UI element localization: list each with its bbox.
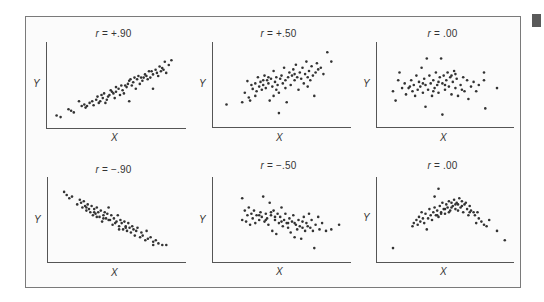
data-point xyxy=(149,76,152,79)
data-point xyxy=(414,95,417,98)
data-point xyxy=(287,76,290,79)
data-point xyxy=(141,80,144,83)
data-point xyxy=(441,82,444,85)
y-axis-label: Y xyxy=(363,212,370,223)
data-point xyxy=(306,76,309,79)
data-point xyxy=(255,214,258,217)
data-point xyxy=(105,217,108,220)
data-point xyxy=(262,79,265,82)
data-point xyxy=(488,219,491,222)
data-point xyxy=(283,67,286,70)
data-point xyxy=(293,79,296,82)
data-point xyxy=(261,216,264,219)
data-point xyxy=(158,65,161,68)
data-point xyxy=(416,88,419,91)
data-point xyxy=(121,89,124,92)
x-axis-label: X xyxy=(111,267,118,278)
data-point xyxy=(278,222,281,225)
data-point xyxy=(101,220,104,223)
data-point xyxy=(297,88,300,91)
data-point xyxy=(426,57,429,60)
data-point xyxy=(317,216,320,219)
data-point xyxy=(318,228,321,231)
data-point xyxy=(282,225,285,228)
data-point xyxy=(161,67,164,70)
data-point xyxy=(117,214,120,217)
data-point xyxy=(450,93,453,96)
data-point xyxy=(312,74,315,77)
data-point xyxy=(485,225,488,228)
data-point xyxy=(78,100,81,103)
data-point xyxy=(104,102,107,105)
x-axis-label: X xyxy=(276,266,283,277)
data-point xyxy=(316,62,319,65)
data-point xyxy=(118,228,121,231)
data-point xyxy=(292,68,295,71)
data-point xyxy=(314,223,317,226)
data-point xyxy=(292,214,295,217)
data-point xyxy=(259,81,262,84)
data-point xyxy=(80,105,83,108)
data-point xyxy=(308,213,311,216)
data-point xyxy=(59,116,62,119)
data-point xyxy=(246,214,249,217)
data-point xyxy=(261,88,264,91)
data-point xyxy=(466,208,469,211)
data-point xyxy=(279,78,282,81)
data-point xyxy=(91,100,94,103)
data-point xyxy=(80,202,83,205)
data-point xyxy=(246,80,249,83)
data-point xyxy=(450,202,453,205)
y-axis-label: Y xyxy=(199,214,206,225)
data-point xyxy=(338,223,341,226)
data-point xyxy=(314,71,317,74)
data-point xyxy=(134,234,137,237)
data-point xyxy=(160,70,163,73)
y-axis-label: Y xyxy=(33,78,40,89)
data-point xyxy=(478,217,481,220)
data-point xyxy=(309,79,312,82)
data-point xyxy=(422,82,425,85)
data-point xyxy=(306,225,309,228)
data-point xyxy=(483,79,486,82)
data-point xyxy=(304,73,307,76)
data-point xyxy=(416,223,419,226)
data-point xyxy=(262,195,265,198)
data-point xyxy=(444,84,447,87)
scatter-plot xyxy=(212,42,351,128)
data-point xyxy=(301,227,304,230)
data-point xyxy=(157,242,160,245)
data-point xyxy=(83,103,86,106)
data-point xyxy=(88,208,91,211)
panel-title: r = +.50 xyxy=(196,28,361,39)
data-point xyxy=(453,198,456,201)
data-point xyxy=(126,230,129,233)
data-point xyxy=(470,85,473,88)
panel-title: r = −.50 xyxy=(196,160,361,171)
data-point xyxy=(442,74,445,77)
data-point xyxy=(100,209,103,212)
data-point xyxy=(114,222,117,225)
data-point xyxy=(148,70,151,73)
data-point xyxy=(124,227,127,230)
data-point xyxy=(418,216,421,219)
data-point xyxy=(117,87,120,90)
data-point xyxy=(278,112,281,115)
data-point xyxy=(96,216,99,219)
data-point xyxy=(304,230,307,233)
data-point xyxy=(310,219,313,222)
data-point xyxy=(271,85,274,88)
page-tab-marker xyxy=(532,14,541,27)
data-point xyxy=(123,220,126,223)
data-point xyxy=(445,79,448,82)
data-point xyxy=(84,106,87,109)
data-point xyxy=(170,59,173,62)
data-point xyxy=(326,51,329,54)
data-point xyxy=(429,82,432,85)
data-point xyxy=(115,91,118,94)
data-point xyxy=(110,214,113,217)
data-point xyxy=(147,237,150,240)
data-point xyxy=(461,88,464,91)
data-point xyxy=(152,241,155,244)
data-point xyxy=(83,200,86,203)
